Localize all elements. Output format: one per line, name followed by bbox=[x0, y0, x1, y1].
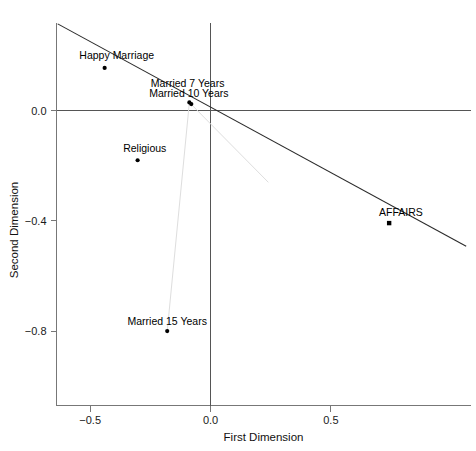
point-label-married-15-years: Married 15 Years bbox=[128, 315, 207, 327]
y-tick-label-2: −0.8 bbox=[25, 325, 47, 337]
x-tick-label-0: −0.5 bbox=[79, 414, 101, 426]
y-tick-label-0: 0.0 bbox=[31, 105, 46, 117]
marker-happy-marriage bbox=[103, 66, 107, 70]
x-axis-title: First Dimension bbox=[224, 431, 304, 443]
x-tick-label-2: 0.5 bbox=[323, 414, 338, 426]
point-label-happy-marriage: Happy Marriage bbox=[79, 49, 154, 61]
y-axis-title: Second Dimension bbox=[8, 182, 20, 279]
marker-married-15-years bbox=[165, 329, 169, 333]
y-axis-title-wrapper: Second Dimension bbox=[4, 150, 24, 310]
marker-religious bbox=[136, 158, 140, 162]
data-point-markers-group bbox=[103, 66, 392, 333]
chart-canvas: −0.50.00.5 0.0−0.4−0.8 Happy MarriageMar… bbox=[0, 0, 476, 451]
profile-path bbox=[167, 102, 268, 331]
series-lines-group bbox=[58, 24, 466, 331]
x-tick-label-1: 0.0 bbox=[203, 414, 218, 426]
scatter-plot-svg bbox=[0, 0, 476, 451]
point-label-married-10-years: Married 10 Years bbox=[149, 87, 228, 99]
y-tick-label-1: −0.4 bbox=[25, 215, 47, 227]
point-label-affairs: AFFAIRS bbox=[379, 206, 423, 218]
point-label-religious: Religious bbox=[123, 142, 166, 154]
axis-tick-marks-group bbox=[51, 111, 331, 412]
marker-married-10-years bbox=[189, 102, 193, 106]
marker-affairs bbox=[387, 221, 391, 225]
